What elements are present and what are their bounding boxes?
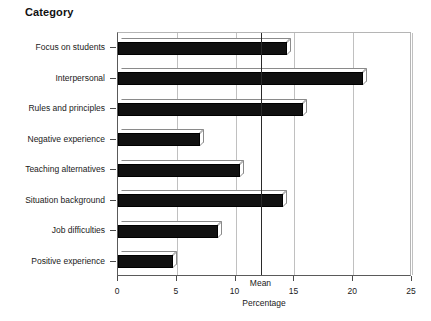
- page-title: Category: [25, 6, 73, 18]
- x-tick: [235, 276, 236, 281]
- category-label: Situation background: [0, 196, 105, 205]
- x-tick: [411, 276, 412, 281]
- bar-side-face: [303, 99, 307, 116]
- bar-face: [118, 225, 218, 238]
- bar-chart: Category Focus on studentsInterpersonalR…: [0, 0, 431, 321]
- x-tick-label: 0: [115, 286, 120, 296]
- category-tick: [110, 108, 116, 109]
- x-axis-title: Percentage: [242, 298, 285, 308]
- bar: [118, 251, 173, 268]
- category-tick: [110, 230, 116, 231]
- bar: [118, 221, 218, 238]
- bar-face: [118, 133, 200, 146]
- category-label: Teaching alternatives: [0, 165, 105, 174]
- category-tick: [110, 169, 116, 170]
- bar: [118, 129, 200, 146]
- bar-face: [118, 194, 283, 207]
- bar: [118, 99, 303, 116]
- mean-reference-line: [261, 33, 262, 275]
- bar-side-face: [283, 190, 287, 207]
- category-label: Rules and principles: [0, 104, 105, 113]
- category-tick: [110, 78, 116, 79]
- x-tick: [176, 276, 177, 281]
- category-label: Positive experience: [0, 257, 105, 266]
- bar-side-face: [287, 38, 291, 55]
- bar-face: [118, 255, 173, 268]
- bar-face: [118, 164, 240, 177]
- x-tick-label: 5: [173, 286, 178, 296]
- bar-face: [118, 103, 303, 116]
- category-label: Interpersonal: [0, 74, 105, 83]
- category-label: Job difficulties: [0, 226, 105, 235]
- bar: [118, 68, 363, 85]
- bar-side-face: [200, 129, 204, 146]
- x-tick: [293, 276, 294, 281]
- bar-face: [118, 72, 363, 85]
- bar-side-face: [363, 68, 367, 85]
- x-tick-label: 20: [347, 286, 356, 296]
- category-tick: [110, 261, 116, 262]
- category-tick: [110, 139, 116, 140]
- category-label: Focus on students: [0, 43, 105, 52]
- bar-side-face: [218, 221, 222, 238]
- bar-side-face: [240, 160, 244, 177]
- category-tick: [110, 200, 116, 201]
- bar: [118, 160, 240, 177]
- x-tick: [117, 276, 118, 281]
- mean-label: Mean: [250, 278, 271, 288]
- x-tick-label: 25: [406, 286, 415, 296]
- x-tick: [352, 276, 353, 281]
- gridline-25: [412, 33, 413, 275]
- category-label: Negative experience: [0, 135, 105, 144]
- x-tick-label: 15: [289, 286, 298, 296]
- category-tick: [110, 47, 116, 48]
- bar: [118, 190, 283, 207]
- plot-area: [117, 32, 411, 276]
- x-tick-label: 10: [230, 286, 239, 296]
